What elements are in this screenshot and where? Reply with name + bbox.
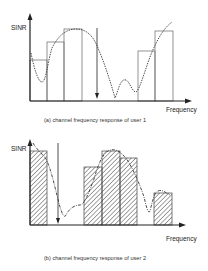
hatched-bar [30, 151, 47, 225]
hatched-bar [154, 193, 172, 225]
panel-b-user2-response: SINR Frequency (b) channel frequency res… [0, 135, 208, 271]
sinr-curve-user1 [31, 22, 172, 98]
x-axis-label: Frequency [166, 106, 197, 113]
y-axis-label: SINR [11, 145, 27, 152]
hatched-bar [120, 158, 137, 225]
panel-b-bars [30, 151, 172, 225]
threshold-arrowhead [95, 93, 99, 99]
bar [138, 51, 155, 101]
y-axis-label: SINR [11, 24, 27, 31]
panel-b-plot [0, 135, 208, 271]
bar [64, 29, 82, 101]
panel-a-user1-response: SINR Frequency (a) channel frequency res… [0, 0, 208, 135]
x-axis-arrowhead [179, 223, 186, 228]
threshold-arrowhead [56, 218, 60, 224]
bar [47, 42, 64, 101]
bar [155, 31, 173, 101]
bar [30, 60, 47, 101]
y-axis-arrowhead [28, 13, 33, 20]
panel-b-caption: (b) channel frequency response of user 2 [44, 255, 146, 262]
x-axis-label: Frequency [166, 235, 197, 242]
hatched-bar [84, 167, 102, 225]
x-axis-arrowhead [185, 99, 192, 104]
panel-a-plot [0, 0, 208, 135]
panel-a-caption: (a) channel frequency response of user 1 [44, 117, 146, 124]
hatched-bar [102, 151, 120, 225]
y-axis-arrowhead [28, 139, 33, 146]
panel-a-bars [30, 29, 173, 101]
